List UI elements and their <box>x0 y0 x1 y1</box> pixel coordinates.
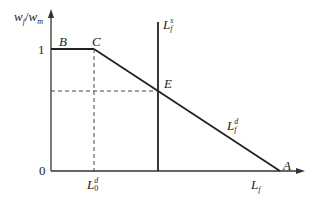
x-marker-sub: 0 <box>94 185 98 193</box>
demand-curve-label: Ldf <box>227 119 238 135</box>
demand-main: L <box>227 118 234 133</box>
y-label-sub-f: f <box>23 17 25 26</box>
point-a-label: A <box>283 159 291 172</box>
point-e-label: E <box>164 77 172 90</box>
supply-main: L <box>163 17 170 32</box>
y-axis-arrow-icon <box>48 9 54 18</box>
y-tick-one: 1 <box>38 43 45 56</box>
origin-label: 0 <box>39 164 46 177</box>
demand-supsub: df <box>234 118 238 134</box>
y-axis-label: wf/wm <box>14 10 43 23</box>
y-label-sub-m: m <box>37 17 43 26</box>
y-label-w2: w <box>29 9 38 24</box>
demand-sub: f <box>234 126 238 134</box>
labor-supply-demand-diagram: wf/wm 1 0 B C E A Lsf Ldf Ld0 Lf <box>0 0 312 200</box>
x-marker-supsub: d0 <box>94 177 98 193</box>
supply-curve-label: Lsf <box>163 18 173 34</box>
x-axis-label: Lf <box>251 178 260 191</box>
x-axis-arrow-icon <box>296 168 305 174</box>
point-c-label: C <box>92 35 101 48</box>
diagram-canvas <box>0 0 312 200</box>
y-label-w1: w <box>14 9 23 24</box>
supply-sub: f <box>170 25 173 33</box>
x-marker-label: Ld0 <box>87 178 98 194</box>
point-b-label: B <box>59 35 67 48</box>
supply-supsub: sf <box>170 17 173 33</box>
demand-curve <box>94 49 280 171</box>
x-marker-main: L <box>87 177 94 192</box>
